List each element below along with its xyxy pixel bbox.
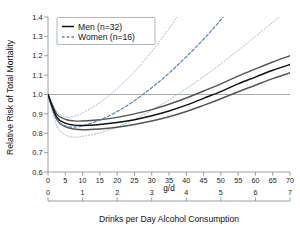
x-bottom-axis-tick-label: 2 [115, 188, 119, 197]
x-bottom-axis-tick-label: 3 [150, 188, 154, 197]
y-axis-ticks [44, 17, 48, 172]
y-axis-tick-label: 1.0 [32, 90, 42, 99]
x-top-axis-tick-label: 65 [269, 176, 277, 185]
x-top-axis-tick-label: 30 [148, 176, 156, 185]
chart-canvas: 0.60.70.80.91.01.11.21.31.4 051015202530… [0, 0, 300, 230]
y-axis-tick-label: 0.8 [32, 129, 42, 138]
y-axis-tick-label: 1.3 [32, 32, 42, 41]
x-bottom-axis-tick-label: 1 [81, 188, 85, 197]
x-top-axis-tick-label: 20 [113, 176, 121, 185]
x-bottom-axis-tick-label: 6 [253, 188, 257, 197]
y-axis-tick-label: 1.1 [32, 71, 42, 80]
y-axis-tick-label: 0.6 [32, 168, 42, 177]
x-top-axis-tick-label: 70 [286, 176, 294, 185]
x-top-axis-tick-label: 45 [200, 176, 208, 185]
x-top-axis-tick-label: 55 [234, 176, 242, 185]
y-axis-tick-label: 1.4 [32, 13, 42, 22]
x-bottom-axis-tick-label: 4 [184, 188, 188, 197]
legend: Men (n=32) Women (n=16) [57, 18, 155, 45]
x-top-axis-tick-label: 0 [46, 176, 50, 185]
x-top-axis-tick-label: 15 [96, 176, 104, 185]
legend-label-women: Women (n=16) [78, 32, 135, 42]
x-top-axis-tick-label: 25 [130, 176, 138, 185]
legend-label-men: Men (n=32) [78, 22, 122, 32]
x-top-axis-title: g/d [163, 184, 175, 193]
x-bottom-axis-tick-label: 5 [219, 188, 223, 197]
x-bottom-axis-tick-label: 0 [46, 188, 50, 197]
x-top-axis-tick-label: 60 [251, 176, 259, 185]
alcohol-mortality-figure: 0.60.70.80.91.01.11.21.31.4 051015202530… [0, 0, 300, 230]
y-axis-tick-label: 1.2 [32, 51, 42, 60]
x-top-axis-tick-label: 5 [63, 176, 67, 185]
y-axis-tick-labels: 0.60.70.80.91.01.11.21.31.4 [32, 13, 42, 177]
x-top-axis-tick-label: 10 [79, 176, 87, 185]
y-axis-tick-label: 0.7 [32, 148, 42, 157]
x-top-axis-tick-label: 40 [182, 176, 190, 185]
x-top-axis-tick-label: 50 [217, 176, 225, 185]
x-bottom-axis-ticks [48, 197, 290, 201]
y-axis-tick-label: 0.9 [32, 110, 42, 119]
y-axis-title: Relative Risk of Total Mortality [5, 39, 15, 155]
x-bottom-axis-title: Drinks per Day Alcohol Consumption [99, 214, 239, 224]
x-bottom-axis-tick-label: 7 [288, 188, 292, 197]
